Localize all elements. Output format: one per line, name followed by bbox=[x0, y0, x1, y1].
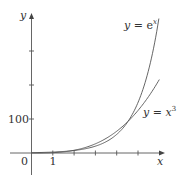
exp-series-label: y = ex bbox=[123, 18, 157, 32]
x-tick-1-label: 1 bbox=[50, 155, 57, 168]
cube-curve bbox=[32, 80, 160, 153]
origin-label: 0 bbox=[21, 155, 28, 168]
y-axis-arrow-icon bbox=[29, 13, 34, 19]
cube-series-label: y = x3 bbox=[142, 105, 176, 119]
y-tick-100-label: 100 bbox=[8, 113, 29, 126]
x-axis-label: x bbox=[157, 155, 164, 168]
axes bbox=[10, 16, 162, 175]
y-axis-label: y bbox=[19, 9, 27, 22]
exp-curve bbox=[32, 19, 159, 153]
exp-vs-cubic-chart: 0 1 100 x y y = ex y = x3 bbox=[0, 0, 183, 184]
